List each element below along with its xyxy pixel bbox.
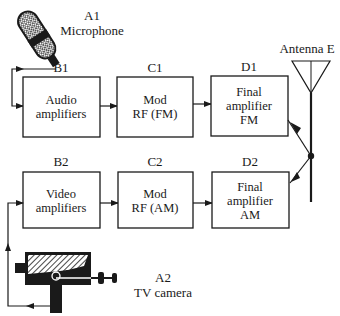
tv-camera-icon (15, 252, 117, 313)
block-d2-line1: Final (237, 180, 263, 194)
block-d1-line1: Final (236, 85, 262, 99)
block-b2-line1: Video (46, 187, 76, 201)
arrowhead-a1 (16, 66, 24, 72)
microphone-id: A1 (84, 8, 100, 23)
antenna-label: Antenna E (279, 41, 334, 56)
block-d1-id: D1 (241, 59, 257, 74)
block-d2: D2 Final amplifier AM (212, 154, 289, 228)
arrowhead-d2 (291, 172, 300, 182)
block-c2-line1: Mod (143, 187, 167, 201)
block-d1-line3: FM (240, 113, 258, 127)
block-b2-line2: amplifiers (36, 201, 87, 215)
block-b2: B2 Video amplifiers (23, 154, 100, 228)
block-c1: C1 Mod RF (FM) (117, 60, 193, 137)
block-d1-line2: amplifier (226, 99, 273, 113)
block-b2-id: B2 (53, 154, 68, 169)
block-b1-line1: Audio (45, 93, 76, 107)
block-c1-id: C1 (147, 60, 162, 75)
block-d2-line3: AM (240, 208, 260, 222)
arrowhead-a2-up (5, 243, 11, 251)
block-b1-id: B1 (53, 60, 68, 75)
block-c1-line2: RF (FM) (133, 107, 178, 121)
block-d1: D1 Final amplifier FM (211, 59, 288, 136)
arrowhead-a2-left (26, 303, 34, 309)
block-d2-line2: amplifier (227, 194, 274, 208)
block-d2-id: D2 (242, 154, 258, 169)
wire-d1-antenna (288, 120, 311, 156)
camera-id: A2 (155, 270, 171, 285)
block-c2-id: C2 (147, 154, 162, 169)
microphone-label: Microphone (60, 23, 124, 38)
block-b1: B1 Audio amplifiers (23, 60, 100, 137)
block-b1-line2: amplifiers (36, 107, 87, 121)
block-c1-line1: Mod (143, 93, 167, 107)
block-c2: C2 Mod RF (AM) (118, 154, 193, 228)
block-c2-line2: RF (AM) (132, 201, 179, 215)
camera-label: TV camera (134, 285, 192, 300)
block-diagram: A1 Microphone B1 Audio amplifiers C1 Mod… (0, 0, 340, 316)
